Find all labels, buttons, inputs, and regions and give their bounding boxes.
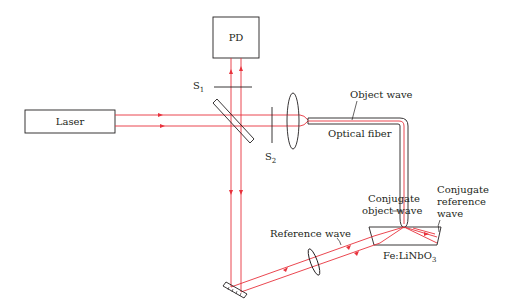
bottom-mirror	[223, 282, 247, 298]
reference-beams	[231, 236, 380, 292]
conjugate-object-wave-label-1: Conjugate	[368, 193, 420, 204]
reference-wave-label: Reference wave	[270, 228, 351, 239]
laser-label: Laser	[56, 116, 85, 127]
conjugate-reference-wave-label-2: reference	[437, 196, 486, 207]
beamsplitter	[213, 99, 254, 143]
pd-label: PD	[229, 32, 244, 43]
arrow-icon	[158, 113, 163, 117]
optical-diagram: Laser PD S1 S2	[0, 0, 509, 308]
reference-lens	[306, 248, 322, 277]
focusing-lens	[287, 93, 299, 149]
crystal-beams	[374, 227, 437, 243]
arrow-down-icon	[239, 190, 243, 195]
optical-fiber-label: Optical fiber	[328, 128, 392, 139]
arrow-down-icon	[229, 190, 233, 195]
laser: Laser	[25, 110, 115, 133]
shutter-2: S2	[265, 107, 276, 165]
arrow-up-icon	[239, 66, 243, 71]
vertical-beams	[229, 58, 243, 292]
arrow-up-icon	[229, 69, 233, 74]
conjugate-object-wave-label-2: object wave	[362, 205, 422, 216]
arrow-icon	[160, 124, 165, 128]
conjugate-reference-wave-label-3: wave	[437, 208, 463, 219]
shutter-1: S1	[193, 80, 252, 94]
laser-beams	[115, 113, 308, 128]
crystal-label: Fe:LiNbO3	[383, 250, 436, 264]
s2-label: S2	[265, 151, 276, 165]
conjugate-reference-wave-label-1: Conjugate	[437, 184, 489, 195]
photodetector: PD	[213, 17, 259, 58]
s1-label: S1	[193, 80, 204, 94]
object-wave-label: Object wave	[350, 89, 413, 100]
